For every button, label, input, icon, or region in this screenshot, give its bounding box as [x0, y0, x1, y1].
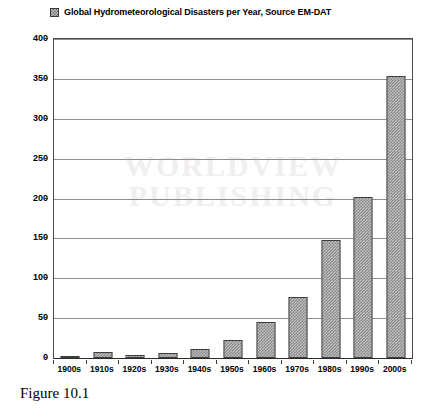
bar-slot — [217, 39, 250, 358]
y-axis-tick-mark — [44, 38, 48, 39]
legend-label: Global Hydrometeorological Disasters per… — [64, 7, 331, 17]
x-axis-tick-label: 1900s — [57, 364, 81, 374]
x-axis-tick-mark — [151, 360, 152, 364]
bar-slot — [249, 39, 282, 358]
x-axis-tick-mark — [216, 360, 217, 364]
x-axis-tick-mark — [118, 360, 119, 364]
bar[interactable] — [354, 197, 373, 358]
bar[interactable] — [191, 349, 210, 358]
bar-slot — [282, 39, 315, 358]
figure-container: Global Hydrometeorological Disasters per… — [0, 0, 428, 412]
bar-slot — [119, 39, 152, 358]
x-axis-tick-label: 1930s — [155, 364, 179, 374]
y-axis-tick-label: 250 — [4, 153, 48, 163]
bar[interactable] — [386, 76, 405, 358]
y-axis-tick-mark — [44, 198, 48, 199]
y-axis-tick-label: 0 — [4, 352, 48, 362]
x-axis-tick-label: 1910s — [90, 364, 114, 374]
y-axis-tick-label: 150 — [4, 232, 48, 242]
bar[interactable] — [256, 322, 275, 358]
bar-slot — [184, 39, 217, 358]
x-axis-tick-mark — [53, 360, 54, 364]
bar-slot — [379, 39, 412, 358]
chart-legend: Global Hydrometeorological Disasters per… — [50, 5, 331, 19]
y-axis-tick-mark — [44, 237, 48, 238]
bar[interactable] — [289, 297, 308, 358]
x-axis-tick-label: 1990s — [350, 364, 374, 374]
bar[interactable] — [223, 340, 242, 358]
bar[interactable] — [321, 240, 340, 358]
y-axis-tick-label: 50 — [4, 312, 48, 322]
x-axis-tick-label: 1970s — [285, 364, 309, 374]
x-axis-tick-mark — [248, 360, 249, 364]
y-axis-tick-label: 400 — [4, 33, 48, 43]
hatched-square-icon — [50, 8, 59, 17]
y-axis-tick-mark — [44, 317, 48, 318]
x-axis-tick-label: 1950s — [220, 364, 244, 374]
bar-slot — [152, 39, 185, 358]
y-axis-tick-label: 100 — [4, 272, 48, 282]
bar[interactable] — [61, 356, 80, 359]
x-axis-tick-mark — [183, 360, 184, 364]
x-axis-tick-mark — [86, 360, 87, 364]
y-axis-tick-label: 200 — [4, 193, 48, 203]
bar[interactable] — [93, 352, 112, 358]
x-axis-tick-label: 1960s — [253, 364, 277, 374]
y-axis-tick-mark — [44, 118, 48, 119]
x-axis-tick-mark — [411, 360, 412, 364]
bar-slot — [347, 39, 380, 358]
bar-slot — [54, 39, 87, 358]
x-axis-tick-label: 1920s — [123, 364, 147, 374]
y-axis-tick-mark — [44, 158, 48, 159]
bar-slot — [314, 39, 347, 358]
x-axis-tick-mark — [281, 360, 282, 364]
bar-series — [54, 39, 412, 358]
figure-caption: Figure 10.1 — [20, 385, 89, 402]
y-axis: 050100150200250300350400 — [0, 38, 48, 357]
plot-area: WORLDVIEW PUBLISHING — [53, 38, 413, 359]
x-axis: 1900s1910s1920s1930s1940s1950s1960s1970s… — [53, 360, 414, 378]
y-axis-tick-label: 350 — [4, 73, 48, 83]
y-axis-tick-label: 300 — [4, 113, 48, 123]
x-axis-tick-mark — [346, 360, 347, 364]
bar[interactable] — [158, 353, 177, 358]
x-axis-tick-mark — [313, 360, 314, 364]
bar-slot — [87, 39, 120, 358]
y-axis-tick-mark — [44, 78, 48, 79]
bar[interactable] — [126, 355, 145, 358]
x-axis-tick-label: 2000s — [383, 364, 407, 374]
x-axis-tick-label: 1980s — [318, 364, 342, 374]
x-axis-tick-mark — [378, 360, 379, 364]
y-axis-tick-mark — [44, 357, 48, 358]
y-axis-tick-mark — [44, 277, 48, 278]
x-axis-tick-label: 1940s — [188, 364, 212, 374]
